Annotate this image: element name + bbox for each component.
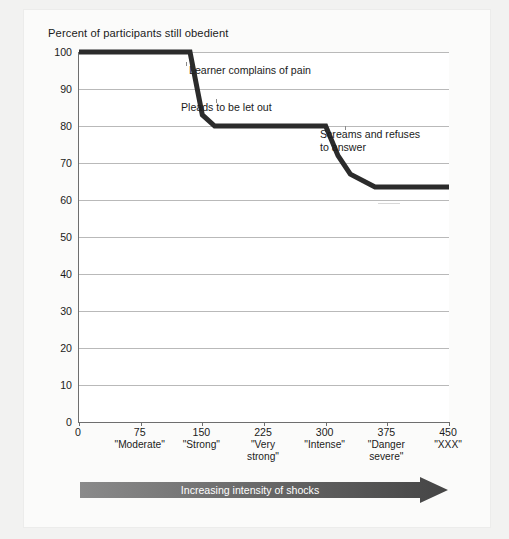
annotation-pleads-to-be-let-out: Pleads to be let out <box>181 101 272 114</box>
y-tick-label: 40 <box>46 268 72 280</box>
x-tick-category: "XXX" <box>403 439 493 451</box>
annotation-tick-1 <box>216 99 217 103</box>
intensity-arrow: Increasing intensity of shocks <box>80 477 448 503</box>
y-tick-label: 60 <box>46 194 72 206</box>
y-tick-label: 20 <box>46 342 72 354</box>
y-tick-label: 50 <box>46 231 72 243</box>
annotation-tick-2 <box>345 126 346 130</box>
x-tick-label-group: 450"XXX" <box>403 426 493 451</box>
figure-page: Percent of participants still obedient 0… <box>0 0 509 539</box>
y-tick-label: 30 <box>46 305 72 317</box>
annotation-tick-3 <box>378 203 400 204</box>
x-tick-number: 0 <box>68 426 88 439</box>
annotation-screams-and-refuses: Screams and refuses to answer <box>320 128 420 154</box>
y-axis-tick-labels: 0102030405060708090100 <box>44 52 72 422</box>
annotation-tick-0 <box>186 62 187 66</box>
x-tick-number: 450 <box>403 426 493 439</box>
chart-title: Percent of participants still obedient <box>48 27 228 39</box>
x-tick-label-group: 0 <box>68 426 88 439</box>
y-tick-label: 80 <box>46 120 72 132</box>
y-tick-label: 100 <box>46 46 72 58</box>
annotation-learner-complains: Learner complains of pain <box>189 64 311 77</box>
y-tick-label: 90 <box>46 83 72 95</box>
y-tick-label: 10 <box>46 379 72 391</box>
y-tick-label: 70 <box>46 157 72 169</box>
chart-figure: Percent of participants still obedient 0… <box>0 0 509 539</box>
arrow-shape <box>80 477 448 503</box>
